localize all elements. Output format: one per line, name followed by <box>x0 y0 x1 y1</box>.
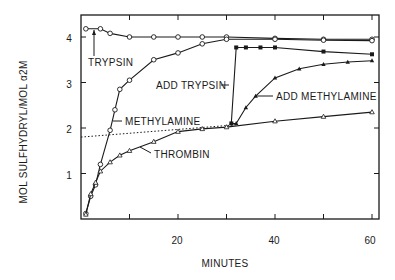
y-tick-4: 4 <box>66 33 72 44</box>
annotation-add-methylamine: ADD METHYLAMINE <box>276 91 377 102</box>
marker-open-circle <box>224 37 229 42</box>
marker-filled-square <box>234 45 238 49</box>
marker-filled-square <box>273 45 277 49</box>
marker-open-circle <box>113 108 118 113</box>
marker-open-circle <box>370 38 375 43</box>
marker-open-circle <box>127 78 132 83</box>
marker-filled-square <box>244 45 248 49</box>
marker-filled-square <box>370 52 374 56</box>
annotation-add-trypsin: ADD TRYPSIN <box>156 80 226 91</box>
marker-open-circle <box>151 57 156 62</box>
annotation-thrombin: THROMBIN <box>154 149 210 160</box>
annotation-trypsin: TRYPSIN <box>88 57 133 68</box>
thrombin-leader <box>140 147 151 153</box>
marker-open-circle <box>176 51 181 56</box>
marker-open-circle <box>200 42 205 47</box>
series-thrombin <box>86 112 372 214</box>
marker-open-circle <box>200 35 205 40</box>
marker-open-circle <box>151 35 156 40</box>
series-add-trypsin <box>231 48 372 124</box>
marker-open-circle <box>176 35 181 40</box>
marker-open-circle <box>108 31 113 36</box>
y-tick-1: 1 <box>66 170 72 181</box>
x-axis-label: MINUTES <box>201 258 248 269</box>
annotation-methylamine: METHYLAMINE <box>125 116 201 127</box>
marker-filled-square <box>258 45 262 49</box>
marker-filled-square <box>322 50 326 54</box>
marker-open-circle <box>321 38 326 43</box>
chart-canvas: 4 3 2 1 20 40 60 MINUTES MOL SULFHYDRYL/… <box>0 0 395 280</box>
marker-open-circle <box>108 128 113 133</box>
marker-open-circle <box>273 37 278 42</box>
marker-open-circle <box>127 35 132 40</box>
marker-open-circle <box>98 162 103 167</box>
marker-open-circle <box>98 27 103 32</box>
marker-open-triangle <box>93 180 98 184</box>
y-tick-2: 2 <box>66 124 72 135</box>
marker-open-circle <box>84 27 89 32</box>
y-tick-3: 3 <box>66 79 72 90</box>
marker-open-circle <box>118 87 123 92</box>
x-tick-60: 60 <box>364 235 376 246</box>
x-tick-40: 40 <box>268 235 280 246</box>
trypsin-arrowhead <box>92 30 96 35</box>
x-tick-20: 20 <box>171 235 183 246</box>
y-axis-label: MOL SULFHYDRYL/MOL α2M <box>18 60 29 203</box>
